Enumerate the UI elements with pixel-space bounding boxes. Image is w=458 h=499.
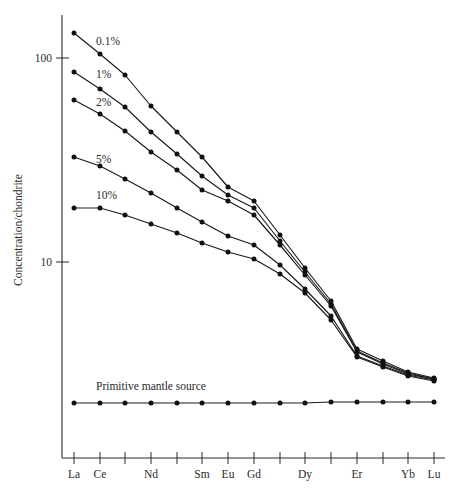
series-6 bbox=[72, 400, 437, 406]
data-point bbox=[381, 400, 386, 405]
data-point bbox=[381, 365, 386, 370]
data-point bbox=[149, 150, 154, 155]
data-point bbox=[123, 73, 128, 78]
data-point bbox=[149, 130, 154, 135]
data-point bbox=[355, 355, 360, 360]
data-point bbox=[252, 401, 257, 406]
data-point bbox=[355, 400, 360, 405]
data-point bbox=[252, 243, 257, 248]
data-point bbox=[72, 401, 77, 406]
data-point bbox=[175, 231, 180, 236]
data-point bbox=[72, 70, 77, 75]
data-point bbox=[278, 243, 283, 248]
data-point bbox=[149, 191, 154, 196]
data-point bbox=[303, 273, 308, 278]
data-point bbox=[98, 401, 103, 406]
data-point bbox=[406, 374, 411, 379]
data-point bbox=[123, 129, 128, 134]
annotation-layer: 0.1%1%2%5%10%Primitive mantle source bbox=[96, 35, 206, 392]
data-point bbox=[329, 318, 334, 323]
y-axis-title: Concentration/chondrite bbox=[12, 174, 24, 286]
data-point bbox=[175, 206, 180, 211]
series-inline-label: 10% bbox=[96, 189, 118, 201]
x-tick-label: La bbox=[68, 468, 80, 480]
series-inline-label: 5% bbox=[96, 153, 112, 165]
mantle-source-label: Primitive mantle source bbox=[96, 380, 206, 392]
data-point bbox=[278, 401, 283, 406]
data-point bbox=[278, 233, 283, 238]
data-point bbox=[175, 401, 180, 406]
series-line bbox=[74, 157, 434, 380]
data-point bbox=[72, 155, 77, 160]
data-point bbox=[123, 213, 128, 218]
x-tick-label: Dy bbox=[298, 468, 312, 481]
data-point bbox=[329, 304, 334, 309]
data-point bbox=[98, 112, 103, 117]
series-inline-label: 0.1% bbox=[96, 35, 120, 47]
x-tick-label: Lu bbox=[428, 468, 441, 480]
data-point bbox=[200, 401, 205, 406]
data-point bbox=[149, 401, 154, 406]
data-point bbox=[200, 174, 205, 179]
data-point bbox=[226, 401, 231, 406]
data-point bbox=[98, 206, 103, 211]
data-point bbox=[123, 401, 128, 406]
data-point bbox=[278, 272, 283, 277]
data-point bbox=[226, 185, 231, 190]
data-point bbox=[200, 241, 205, 246]
data-point bbox=[98, 87, 103, 92]
x-axis-ticks: LaCeNdSmEuGdDyErYbLu bbox=[68, 452, 441, 481]
data-point bbox=[72, 98, 77, 103]
series-inline-label: 1% bbox=[96, 68, 112, 80]
data-point bbox=[252, 213, 257, 218]
data-point bbox=[72, 206, 77, 211]
data-point bbox=[149, 104, 154, 109]
series-inline-label: 2% bbox=[96, 96, 112, 108]
data-point bbox=[329, 400, 334, 405]
ree-chondrite-diagram: 10010 LaCeNdSmEuGdDyErYbLu 0.1%1%2%5%10%… bbox=[0, 0, 458, 499]
data-point bbox=[175, 130, 180, 135]
series-5 bbox=[72, 206, 437, 384]
x-tick-label: Er bbox=[352, 468, 363, 480]
data-point bbox=[303, 291, 308, 296]
data-point bbox=[226, 250, 231, 255]
series-line bbox=[74, 72, 434, 379]
data-point bbox=[98, 52, 103, 57]
series-line bbox=[74, 208, 434, 381]
series-4 bbox=[72, 155, 437, 383]
data-point bbox=[432, 400, 437, 405]
data-point bbox=[200, 155, 205, 160]
data-point bbox=[123, 177, 128, 182]
x-tick-label: Eu bbox=[222, 468, 235, 480]
x-tick-label: Nd bbox=[144, 468, 158, 480]
data-point bbox=[226, 199, 231, 204]
data-point bbox=[252, 199, 257, 204]
series-layer bbox=[72, 31, 437, 406]
y-tick-label: 100 bbox=[35, 52, 53, 64]
data-point bbox=[432, 379, 437, 384]
data-point bbox=[226, 193, 231, 198]
data-point bbox=[406, 400, 411, 405]
data-point bbox=[200, 220, 205, 225]
data-point bbox=[303, 401, 308, 406]
data-point bbox=[149, 222, 154, 227]
data-point bbox=[123, 105, 128, 110]
x-tick-label: Ce bbox=[94, 468, 107, 480]
data-point bbox=[252, 206, 257, 211]
y-axis-ticks: 10010 bbox=[35, 52, 69, 268]
x-tick-label: Yb bbox=[401, 468, 415, 480]
data-point bbox=[226, 234, 231, 239]
data-point bbox=[200, 188, 205, 193]
data-point bbox=[175, 168, 180, 173]
x-tick-label: Gd bbox=[247, 468, 261, 480]
series-3 bbox=[72, 98, 437, 382]
data-point bbox=[175, 152, 180, 157]
series-2 bbox=[72, 70, 437, 382]
x-tick-label: Sm bbox=[194, 468, 209, 480]
data-point bbox=[278, 263, 283, 268]
chart-canvas: 10010 LaCeNdSmEuGdDyErYbLu 0.1%1%2%5%10%… bbox=[0, 0, 458, 499]
series-line bbox=[74, 100, 434, 379]
data-point bbox=[72, 31, 77, 36]
y-tick-label: 10 bbox=[41, 256, 53, 268]
data-point bbox=[252, 257, 257, 262]
